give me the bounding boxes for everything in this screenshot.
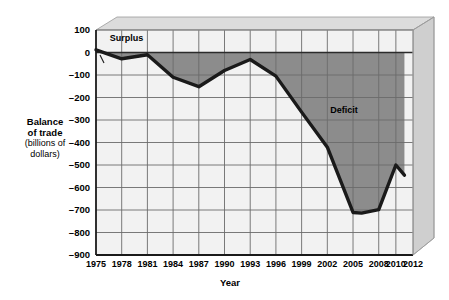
y-tick-label: 100 [56, 24, 90, 35]
y-tick-label: –500 [56, 159, 90, 170]
x-axis-title: Year [200, 277, 260, 288]
y-tick-label: –700 [56, 204, 90, 215]
y-axis-title: Balance of trade (billions of dollars) [8, 116, 82, 160]
balance-of-trade-chart: 1000–100–200–300–400–500–600–700–800–900… [0, 0, 449, 300]
y-tick-label: –600 [56, 182, 90, 193]
deficit-label: Deficit [330, 105, 358, 115]
y-tick-label: –800 [56, 227, 90, 238]
y-tick-label: 0 [56, 47, 90, 58]
surplus-label: Surplus [110, 33, 144, 43]
frame-top-face [96, 17, 434, 30]
frame-right-face [413, 17, 434, 255]
y-axis-title-line2: of trade [8, 127, 82, 138]
y-axis-title-line4: dollars) [8, 149, 82, 160]
y-axis-title-line3: (billions of [8, 138, 82, 149]
y-tick-label: –200 [56, 92, 90, 103]
y-axis-title-line1: Balance [8, 116, 82, 127]
y-tick-label: –100 [56, 69, 90, 80]
x-tick-label: 2012 [398, 259, 428, 269]
